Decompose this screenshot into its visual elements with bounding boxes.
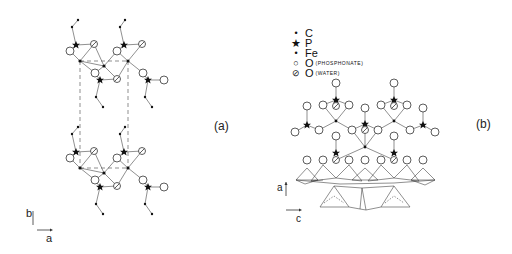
star-icon: ★	[290, 38, 302, 48]
legend-item-oxygen-water: ⊘ O (WATER)	[290, 68, 363, 78]
legend: • C ★ P • Fe ○ O (PHOSPHONATE) ⊘ O (WATE…	[290, 28, 363, 78]
panel-a-label: (a)	[214, 119, 229, 133]
axis-label-c: c	[296, 213, 301, 224]
axis-label-b: b	[26, 207, 32, 219]
legend-item-iron: • Fe	[290, 48, 363, 58]
axis-label-a: a	[46, 232, 52, 244]
panel-b-atoms	[291, 79, 439, 164]
panel-a-structure	[33, 19, 168, 232]
legend-item-phosphorus: ★ P	[290, 38, 363, 48]
panel-b-label: (b)	[476, 117, 491, 131]
open-circle-icon: ○	[290, 58, 302, 68]
hatched-circle-icon: ⊘	[290, 68, 302, 78]
axis-label-a-b: a	[277, 182, 283, 193]
crystal-structure-diagram	[0, 0, 512, 254]
legend-item-oxygen-phosphonate: ○ O (PHOSPHONATE)	[290, 58, 363, 68]
legend-item-carbon: • C	[290, 28, 363, 38]
dot-icon: •	[290, 48, 302, 58]
